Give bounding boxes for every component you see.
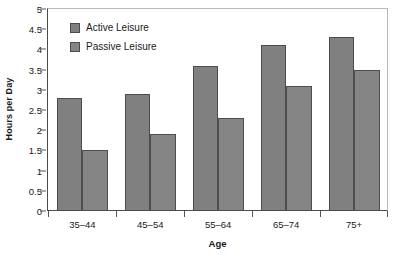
bar-group — [261, 9, 312, 211]
y-axis-tick-mark — [40, 150, 46, 151]
x-axis-tick-mark — [320, 211, 321, 217]
bar — [57, 98, 83, 211]
y-axis-tick-mark — [40, 9, 46, 10]
x-axis-tick-label: 65–74 — [273, 219, 299, 230]
y-axis-tick-mark — [40, 211, 46, 212]
x-axis-tick-label: 45–54 — [137, 219, 163, 230]
x-axis-title: Age — [47, 238, 388, 249]
legend-swatch-icon — [70, 23, 80, 33]
x-axis-tick-mark — [116, 211, 117, 217]
y-axis-tick-mark — [40, 190, 46, 191]
y-axis-tick-mark — [40, 110, 46, 111]
bar — [82, 150, 108, 211]
y-axis-title: Hours per Day — [0, 0, 18, 218]
y-axis-tick-mark — [40, 89, 46, 90]
bar — [193, 66, 219, 211]
x-axis-tick-label: 55–64 — [205, 219, 231, 230]
x-axis-tick-mark — [252, 211, 253, 217]
bar-chart: Hours per Day 00.511.522.533.544.55 35–4… — [0, 0, 402, 260]
x-axis-tick-labels: 35–4445–5455–6465–7475+ — [47, 219, 388, 233]
legend: Active LeisurePassive Leisure — [70, 18, 157, 56]
x-axis-tick-mark — [387, 211, 388, 217]
bar-group — [329, 9, 380, 211]
x-axis-tick-mark — [184, 211, 185, 217]
y-axis-title-text: Hours per Day — [4, 78, 14, 141]
x-axis-tick-label: 35–44 — [69, 219, 95, 230]
bar — [125, 94, 151, 211]
legend-item: Passive Leisure — [70, 37, 157, 56]
bar — [329, 37, 355, 211]
bar — [218, 118, 244, 211]
bar — [286, 86, 312, 211]
y-axis-tick-mark — [40, 130, 46, 131]
x-axis-tick-mark — [48, 211, 49, 217]
y-axis-tick-mark — [40, 170, 46, 171]
bar — [261, 45, 287, 211]
y-axis-tick-mark — [40, 69, 46, 70]
legend-label: Passive Leisure — [86, 41, 157, 52]
bar — [150, 134, 176, 211]
legend-item: Active Leisure — [70, 18, 157, 37]
x-axis-tick-label: 75+ — [346, 219, 362, 230]
x-axis-tick-marks — [47, 211, 388, 218]
y-axis-tick-mark — [40, 49, 46, 50]
legend-label: Active Leisure — [86, 22, 149, 33]
bar — [354, 70, 380, 211]
bar-group — [193, 9, 244, 211]
legend-swatch-icon — [70, 42, 80, 52]
y-axis-tick-mark — [40, 29, 46, 30]
